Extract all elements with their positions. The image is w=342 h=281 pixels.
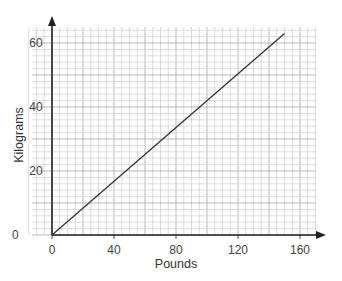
x-tick-label: 0 — [49, 243, 56, 257]
y-tick-label: 0 — [12, 228, 19, 242]
x-axis-label: Pounds — [155, 257, 197, 271]
y-axis-arrow-icon — [48, 16, 56, 26]
y-axis-label: Kilograms — [12, 107, 26, 163]
x-tick-label: 160 — [290, 243, 310, 257]
x-tick-label: 80 — [169, 243, 183, 257]
line-chart: 04080120160 0204060 Pounds Kilograms — [0, 0, 342, 281]
x-tick-label: 40 — [107, 243, 121, 257]
y-tick-label: 20 — [29, 164, 43, 178]
y-tick-label: 40 — [29, 100, 43, 114]
x-axis-arrow-icon — [316, 231, 326, 239]
x-tick-labels: 04080120160 — [49, 235, 311, 257]
x-tick-label: 120 — [228, 243, 248, 257]
y-tick-label: 60 — [29, 36, 43, 50]
